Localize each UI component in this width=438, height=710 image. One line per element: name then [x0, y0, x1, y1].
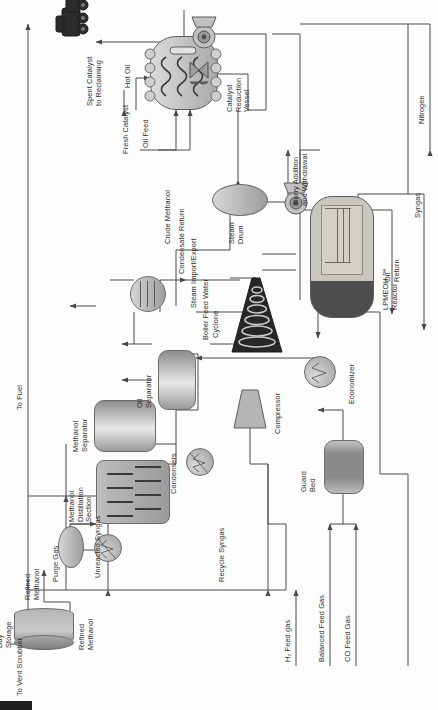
label-methanol-separator: Methanol Separator	[72, 419, 89, 452]
label-balanced-feed-gas: Balanced Feed Gas	[318, 595, 327, 662]
control-valve-icon	[186, 56, 212, 86]
label-economizer: Economizer	[348, 364, 357, 404]
distillation-reboiler	[130, 276, 166, 312]
label-recycle-syngas: Recycle Syngas	[218, 528, 227, 582]
truck-icon	[52, 0, 96, 42]
label-to-fuel: To Fuel	[16, 385, 25, 410]
label-day-storage: Day Storage	[0, 621, 13, 648]
label-syngas: Syngas	[414, 193, 423, 218]
label-guard-bed: Guard Bed	[300, 471, 317, 492]
oil-separator-drum	[158, 350, 196, 410]
label-methanol-distillation-section: Methanol Distillation Section	[68, 487, 94, 522]
label-cyclone: Cyclone	[212, 311, 221, 338]
label-purge-gas: Purge Gas	[52, 546, 61, 582]
label-condensers: Condensers	[170, 453, 179, 494]
label-catalyst-reduction-vessel: Catalyst Reduction Vessel	[226, 78, 252, 112]
label-condensate-return: Condensate Return	[178, 208, 187, 274]
diagram-page: To Fuel Purge Gas Unreacted Syngas Recyc…	[0, 0, 438, 710]
label-to-vent-scrubber: To Vent Scrubber	[16, 638, 25, 696]
pfd-canvas: To Fuel Purge Gas Unreacted Syngas Recyc…	[0, 0, 438, 710]
lpmeoh-reactor	[310, 196, 374, 318]
slurry-pump-icon	[190, 16, 220, 50]
label-oil-feed: Oil Feed	[142, 119, 151, 148]
label-refined-methanol-to-storage: Refined Methanol	[78, 619, 95, 650]
label-unreacted-syngas: Unreacted Syngas	[94, 516, 103, 578]
label-oil-separator: Oil Separator	[136, 375, 153, 408]
label-compressor: Compressor	[274, 393, 283, 434]
economizer-zigzag-icon	[304, 358, 334, 388]
guard-bed-vessel	[324, 440, 364, 494]
label-slurry-addition-and-withdrawal: Slurry Addition and Withdrawal	[292, 154, 309, 206]
cyclone-icon	[230, 276, 284, 354]
label-spent-catalyst-to-reclaiming: Spent Catalyst to Reclaiming	[86, 57, 103, 106]
methanol-distillation-tower	[96, 460, 170, 524]
refined-methanol-drum	[58, 526, 84, 568]
label-refined-methanol-product: Refined Methanol	[24, 569, 41, 600]
rotated-canvas-wrapper: To Fuel Purge Gas Unreacted Syngas Recyc…	[0, 0, 438, 710]
compressor-icon	[230, 386, 270, 432]
steam-drum	[212, 184, 268, 216]
label-hot-oil: Hot Oil	[124, 65, 133, 88]
label-co-feed-gas: CO Feed Gas	[344, 615, 353, 662]
label-boiler-feed-water: Boiler Feed Water	[202, 279, 211, 340]
label-steam-import-export: Steam Import/Export	[190, 238, 199, 308]
label-nitrogen: Nitrogen	[418, 95, 427, 124]
label-steam-drum: Steam Drum	[228, 222, 245, 244]
label-fresh-catalyst: Fresh Catalyst	[122, 105, 131, 154]
label-h2-feed-gas: H₂ Feed gas	[284, 620, 293, 662]
label-lpmeoh-reactor: LPMEOH ™ Reactor	[382, 269, 399, 310]
label-crude-methanol: Crude Methanol	[164, 190, 173, 244]
condenser-zigzag-icon	[186, 450, 212, 476]
